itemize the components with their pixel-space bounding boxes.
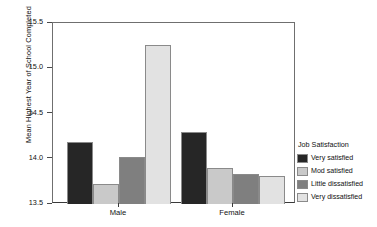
y-axis-tick-mark (47, 67, 52, 68)
x-axis-group-label: Male (78, 208, 158, 217)
legend-title: Job Satisfaction (298, 140, 377, 149)
y-axis-tick-mark (47, 203, 52, 204)
y-axis-tick-label: 14.0 (29, 153, 43, 162)
legend-swatch (297, 154, 308, 163)
bar (233, 174, 259, 204)
y-axis-tick-label: 13.5 (29, 198, 43, 207)
legend-item-label: Very dissatisfied (311, 193, 362, 201)
y-axis-tick-mark (47, 157, 52, 158)
y-axis-tick-mark (47, 22, 52, 23)
plot-area (52, 22, 295, 203)
legend: Job Satisfaction Very satisfiedMod satis… (297, 140, 377, 204)
bar (145, 45, 171, 204)
bar (119, 157, 145, 204)
legend-item: Very dissatisfied (297, 191, 377, 204)
bar (93, 184, 119, 204)
y-axis-tick-label: 15.5 (29, 17, 43, 26)
x-axis-tick-mark (118, 203, 119, 207)
bar (67, 142, 93, 204)
legend-swatch (297, 193, 308, 202)
y-axis-title: Mean Highest Year of School Completed (24, 0, 33, 175)
bar (259, 176, 285, 204)
legend-item-label: Mod satisfied (311, 167, 353, 175)
legend-swatch (297, 180, 308, 189)
legend-item-label: Little dissatisfied (311, 180, 363, 188)
bar (207, 168, 233, 204)
bar (181, 132, 207, 204)
legend-items: Very satisfiedMod satisfiedLittle dissat… (297, 152, 377, 204)
y-axis-tick-label: 15.0 (29, 62, 43, 71)
x-axis-tick-mark (232, 203, 233, 207)
legend-item: Little dissatisfied (297, 178, 377, 191)
legend-swatch (297, 167, 308, 176)
legend-item: Very satisfied (297, 152, 377, 165)
legend-item-label: Very satisfied (311, 154, 353, 162)
y-axis-tick-label: 14.5 (29, 108, 43, 117)
y-axis-tick-mark (47, 112, 52, 113)
x-axis-group-label: Female (192, 208, 272, 217)
legend-item: Mod satisfied (297, 165, 377, 178)
bar-chart: Mean Highest Year of School Completed Jo… (0, 0, 377, 227)
